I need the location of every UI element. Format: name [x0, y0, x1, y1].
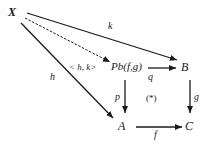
node-c: C — [185, 120, 193, 132]
diagram-arrows — [0, 0, 207, 146]
node-pullback: Pb(f,g) — [111, 61, 142, 72]
pullback-diagram: X Pb(f,g) B A C k < h, k> h q p g f (*) — [0, 0, 207, 146]
label-q: q — [148, 72, 153, 82]
node-a: A — [118, 120, 125, 132]
label-h-k: < h, k> — [69, 63, 96, 72]
label-k: k — [108, 21, 112, 31]
label-g: g — [194, 92, 199, 102]
label-f: f — [154, 130, 157, 140]
commutes-annotation: (*) — [146, 94, 157, 103]
arrow-h — [21, 23, 113, 118]
label-h: h — [50, 72, 55, 82]
node-x: X — [8, 6, 16, 18]
label-p: p — [115, 92, 120, 102]
node-b: B — [181, 61, 188, 73]
